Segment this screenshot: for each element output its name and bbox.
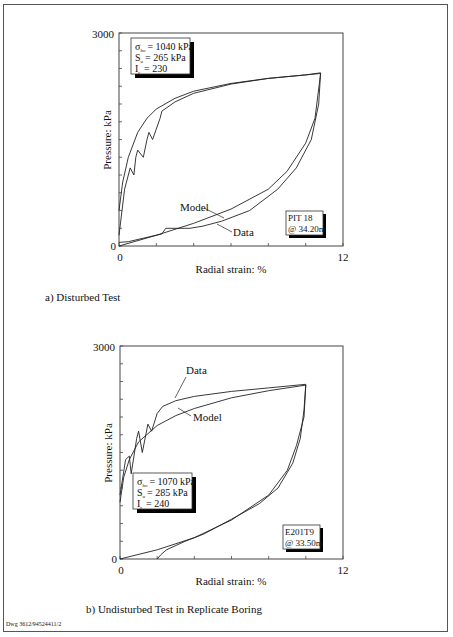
x-axis-label: Radial strain: % <box>196 263 267 275</box>
x-tick-max: 12 <box>338 251 349 263</box>
y-tick-top: 3000 <box>92 28 115 40</box>
parameters-box: σho= 1040 kPa Su= 265 kPa Ir= 230 <box>131 38 194 78</box>
drawing-number: Dwg 3612/94524411/2 <box>6 621 61 627</box>
data-label: Data <box>233 226 254 238</box>
svg-text:@ 33.50m: @ 33.50m <box>285 538 323 548</box>
svg-text:E201T9: E201T9 <box>285 527 314 537</box>
curve-annotations: Model Data <box>180 201 254 238</box>
data-label: Data <box>186 364 207 376</box>
x-axis-label: Radial strain: % <box>196 575 267 587</box>
y-tick-top: 3000 <box>93 341 116 353</box>
caption-panel-b: b) Undisturbed Test in Replicate Boring <box>86 603 262 615</box>
svg-text:@ 34.20m: @ 34.20m <box>288 224 326 234</box>
x-tick-max: 12 <box>338 564 349 576</box>
parameters-box: σho= 1070 kPa Su= 285 kPa Ir= 240 <box>133 473 196 513</box>
location-box: E201T9 @ 33.50m <box>283 525 323 552</box>
model-label: Model <box>180 201 209 213</box>
y-tick-zero: 0 <box>111 240 117 252</box>
caption-panel-a: a) Disturbed Test <box>45 291 120 303</box>
model-label: Model <box>193 411 222 423</box>
y-axis-label: Pressure: kPa <box>101 110 113 170</box>
location-box: PIT 18 @ 34.20m <box>286 211 326 238</box>
figure-canvas: 3000 0 0 12 Radial strain: % Pressure: k… <box>0 0 453 637</box>
svg-text:PIT 18: PIT 18 <box>288 213 313 223</box>
y-tick-zero: 0 <box>112 553 118 565</box>
y-axis-label: Pressure: kPa <box>102 423 114 483</box>
chart-undisturbed-test: 3000 0 0 12 Radial strain: % Pressure: k… <box>93 341 349 587</box>
chart-disturbed-test: 3000 0 0 12 Radial strain: % Pressure: k… <box>92 28 349 275</box>
x-tick-zero: 0 <box>118 564 124 576</box>
x-tick-zero: 0 <box>117 251 123 263</box>
